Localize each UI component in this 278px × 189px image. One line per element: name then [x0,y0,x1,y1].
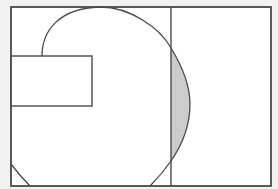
geometry-diagram [0,0,278,189]
small-rectangle [11,56,92,106]
diagram-canvas [0,0,278,189]
